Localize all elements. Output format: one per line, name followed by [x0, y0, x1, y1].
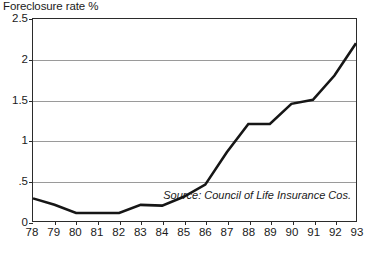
- x-axis-tick-label: 83: [134, 226, 147, 238]
- x-axis-tick-label: 86: [199, 226, 212, 238]
- x-axis-tick-mark: [228, 221, 229, 225]
- x-axis-tick-mark: [271, 221, 272, 225]
- source-annotation: Source: Council of Life Insurance Cos.: [163, 189, 351, 201]
- x-axis-tick-mark: [250, 221, 251, 225]
- x-axis-tick-label: 78: [26, 226, 39, 238]
- x-axis-tick-mark: [98, 221, 99, 225]
- y-axis-tick-label: .5: [0, 175, 28, 187]
- x-axis-tick-label: 79: [47, 226, 60, 238]
- x-axis-tick-label: 91: [307, 226, 320, 238]
- x-axis-tick-mark: [76, 221, 77, 225]
- plot-area: Source: Council of Life Insurance Cos.: [32, 18, 357, 222]
- x-axis-tick-label: 81: [91, 226, 104, 238]
- x-axis-tick-mark: [163, 221, 164, 225]
- y-axis-tick-label: 2: [0, 53, 28, 65]
- series-line-path: [33, 43, 356, 213]
- x-axis-tick-mark: [185, 221, 186, 225]
- x-axis-tick-label: 89: [264, 226, 277, 238]
- x-axis-tick-label: 88: [242, 226, 255, 238]
- x-axis-tick-label: 92: [329, 226, 342, 238]
- y-axis-tick-labels: 0.511.522.5: [0, 0, 30, 255]
- x-axis-tick-label: 90: [286, 226, 299, 238]
- x-axis-tick-mark: [141, 221, 142, 225]
- x-axis-tick-mark: [55, 221, 56, 225]
- y-axis-tick-label: 1: [0, 134, 28, 146]
- bottom-caption: [0, 247, 368, 255]
- x-axis-tick-mark: [315, 221, 316, 225]
- x-axis-tick-mark: [206, 221, 207, 225]
- y-axis-tick-mark: [29, 223, 33, 224]
- x-axis-tick-mark: [336, 221, 337, 225]
- y-axis-tick-label: 2.5: [0, 12, 28, 24]
- x-axis-tick-mark: [120, 221, 121, 225]
- y-axis-tick-label: 1.5: [0, 94, 28, 106]
- x-axis-tick-label: 93: [351, 226, 364, 238]
- x-axis-tick-mark: [293, 221, 294, 225]
- chart-figure: Foreclosure rate % 0.511.522.5 Source: C…: [0, 0, 368, 255]
- x-axis-tick-label: 80: [69, 226, 82, 238]
- x-axis-tick-label: 84: [156, 226, 169, 238]
- y-axis-tick-label: 0: [0, 216, 28, 228]
- x-axis-tick-label: 85: [177, 226, 190, 238]
- x-axis-tick-label: 82: [112, 226, 125, 238]
- x-axis-tick-label: 87: [221, 226, 234, 238]
